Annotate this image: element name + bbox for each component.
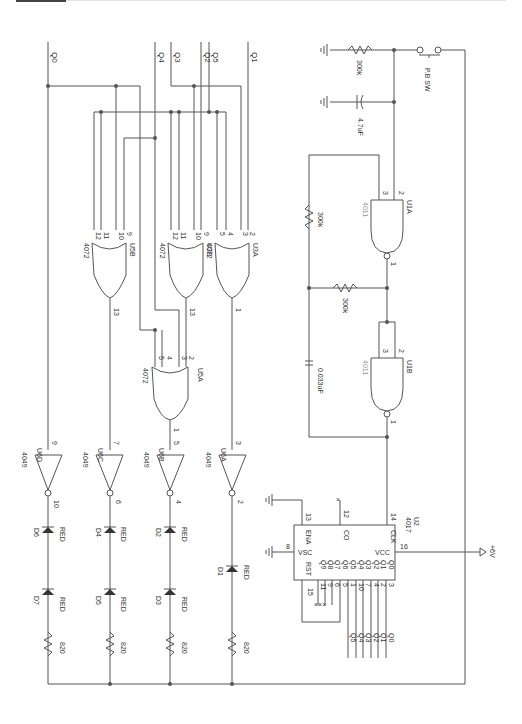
svg-text:D6: D6 xyxy=(33,528,40,537)
svg-text:CLK: CLK xyxy=(390,530,397,544)
svg-text:6: 6 xyxy=(334,583,341,587)
svg-text:U6A: U6A xyxy=(220,448,227,462)
svg-text:Q5: Q5 xyxy=(349,633,357,642)
svg-text:Q2: Q2 xyxy=(372,633,380,642)
led-d7-icon xyxy=(42,589,54,595)
svg-text:820: 820 xyxy=(243,642,250,654)
svg-text:2: 2 xyxy=(398,349,405,353)
svg-text:9: 9 xyxy=(126,232,133,236)
inverter-u6a: U6A 4049 3 2 xyxy=(205,441,246,504)
nand-u1a: U1A 4011 2 3 1 xyxy=(309,155,413,266)
or-gate-u3a: U3A 4072 1 2 3 4 5 xyxy=(206,232,259,450)
input-label-q3: Q3 xyxy=(173,52,182,63)
led-d4-icon xyxy=(104,527,116,533)
svg-text:D3: D3 xyxy=(155,596,162,605)
input-bus: Q0 Q4 Q3 Q2 Q5 Q1 xyxy=(46,42,259,450)
svg-text:3: 3 xyxy=(382,191,389,195)
svg-text:11: 11 xyxy=(103,232,110,239)
svg-text:4049: 4049 xyxy=(82,452,89,468)
svg-text:15: 15 xyxy=(307,588,314,596)
svg-text:RED: RED xyxy=(59,597,66,612)
inverter-u6c: U6C 4049 7 6 xyxy=(82,441,123,504)
svg-text:300k: 300k xyxy=(317,212,324,228)
input-label-q2: Q2 xyxy=(203,52,212,63)
svg-text:U1A: U1A xyxy=(406,200,413,214)
svg-text:14: 14 xyxy=(390,513,397,521)
svg-text:4: 4 xyxy=(175,500,182,504)
svg-text:1: 1 xyxy=(390,262,397,266)
svg-text:5: 5 xyxy=(158,356,165,360)
no-connect-icon: × xyxy=(336,496,340,503)
svg-text:CO: CO xyxy=(343,530,350,541)
svg-text:4011: 4011 xyxy=(362,360,369,375)
svg-text:5: 5 xyxy=(173,441,180,445)
svg-text:13: 13 xyxy=(189,308,196,316)
svg-text:U6C: U6C xyxy=(97,448,104,462)
svg-text:3: 3 xyxy=(235,441,242,445)
supply-arrow-icon xyxy=(480,548,486,556)
or-gate-u5a: U5A 4072 1 2 3 4 5 xyxy=(140,310,204,450)
svg-text:Q4: Q4 xyxy=(357,633,365,642)
svg-text:+6V: +6V xyxy=(489,545,496,558)
svg-text:9: 9 xyxy=(51,441,58,445)
svg-text:13: 13 xyxy=(305,513,312,521)
svg-text:16: 16 xyxy=(400,543,408,550)
svg-text:3: 3 xyxy=(181,356,188,360)
inverter-u6b: U6B 4049 5 4 xyxy=(143,441,184,504)
svg-text:1: 1 xyxy=(390,420,397,424)
svg-text:RED: RED xyxy=(181,527,188,542)
no-connect-icon: ××× xyxy=(314,601,326,608)
led-d3-icon xyxy=(164,589,176,595)
led-d2-icon xyxy=(164,527,176,533)
svg-text:5: 5 xyxy=(219,232,226,236)
svg-text:820: 820 xyxy=(59,642,66,654)
nand-u1b: U1B 4011 2 3 1 xyxy=(362,320,413,424)
svg-text:4017: 4017 xyxy=(405,517,412,533)
svg-text:7: 7 xyxy=(365,583,372,587)
led-string-2: RED D4 RED D5 820 xyxy=(95,496,127,684)
svg-text:3: 3 xyxy=(388,583,395,587)
svg-text:U2: U2 xyxy=(413,517,420,526)
svg-text:2: 2 xyxy=(398,191,405,195)
svg-text:2: 2 xyxy=(188,356,195,360)
svg-text:Q4: Q4 xyxy=(357,560,365,569)
svg-text:4072: 4072 xyxy=(142,368,149,384)
svg-text:1: 1 xyxy=(350,583,357,587)
svg-text:Q6: Q6 xyxy=(341,560,349,569)
svg-text:4072: 4072 xyxy=(83,243,90,259)
svg-text:4.7uF: 4.7uF xyxy=(357,118,364,136)
svg-text:P.B SW: P.B SW xyxy=(424,68,431,92)
svg-text:11: 11 xyxy=(320,583,327,590)
led-d5-icon xyxy=(104,589,116,595)
svg-text:7: 7 xyxy=(113,441,120,445)
svg-text:4: 4 xyxy=(227,232,234,236)
svg-text:U5A: U5A xyxy=(197,368,204,382)
svg-text:9: 9 xyxy=(327,583,334,587)
svg-text:4011: 4011 xyxy=(362,202,369,217)
counter-4017: U2 4017 13 ENA × 12 CO 14 CLK 8 VSC +6V … xyxy=(266,494,496,658)
svg-text:U6B: U6B xyxy=(158,448,165,462)
svg-text:4: 4 xyxy=(166,356,173,360)
svg-text:12: 12 xyxy=(172,232,179,240)
led-d6-icon xyxy=(42,527,54,533)
svg-text:10: 10 xyxy=(358,583,365,591)
led-string-1: RED D6 RED D7 820 xyxy=(33,496,66,684)
svg-text:D2: D2 xyxy=(155,528,162,537)
svg-text:ENA: ENA xyxy=(305,530,312,545)
svg-text:300k: 300k xyxy=(342,298,349,314)
svg-text:U3A: U3A xyxy=(252,243,259,257)
svg-text:Q2: Q2 xyxy=(372,560,380,569)
led-string-3: RED D2 RED D3 820 xyxy=(155,496,188,684)
svg-text:2: 2 xyxy=(380,583,387,587)
svg-text:10: 10 xyxy=(118,232,125,240)
input-label-q5: Q5 xyxy=(211,52,220,63)
svg-text:3: 3 xyxy=(382,349,389,353)
svg-text:RED: RED xyxy=(181,597,188,612)
svg-text:1: 1 xyxy=(235,308,242,312)
svg-text:4: 4 xyxy=(373,583,380,587)
circuit-schematic: Q0 Q4 Q3 Q2 Q5 Q1 U5B xyxy=(0,0,522,724)
svg-text:11: 11 xyxy=(180,232,187,239)
led-d1-icon xyxy=(226,566,238,572)
svg-text:RST: RST xyxy=(305,562,312,577)
svg-text:RED: RED xyxy=(59,527,66,542)
